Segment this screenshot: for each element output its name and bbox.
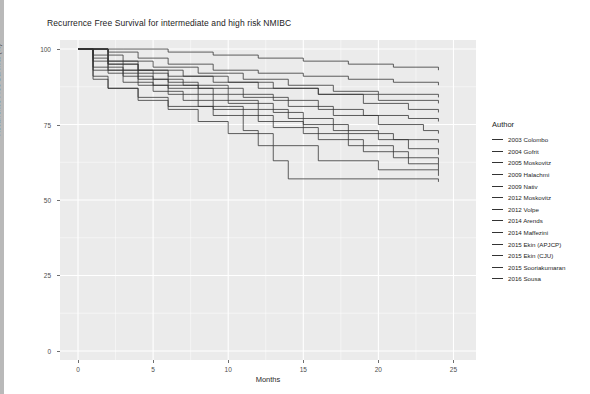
legend-line-icon (492, 151, 503, 152)
x-tick-mark (153, 360, 154, 363)
x-tick-mark (303, 360, 304, 363)
legend-item[interactable]: 2005 Moskovitz (492, 157, 588, 169)
legend-item[interactable]: 2015 Ekin (CJU) (492, 250, 588, 262)
x-tick-label: 0 (76, 366, 80, 373)
legend-line-icon (492, 139, 503, 140)
legend-item-label: 2015 Sooriakumaran (508, 264, 565, 271)
legend-line-icon (492, 162, 503, 163)
legend-item[interactable]: 2004 Gofrit (492, 146, 588, 158)
legend-item[interactable]: 2014 Arends (492, 215, 588, 227)
legend-item-label: 2015 Ekin (CJU) (508, 252, 553, 259)
legend-item[interactable]: 2015 Sooriakumaran (492, 262, 588, 274)
legend-title: Author (492, 120, 588, 129)
legend-item-list: 2003 Colombo2004 Gofrit2005 Moskovitz200… (492, 134, 588, 285)
legend-item[interactable]: 2015 Ekin (APJCP) (492, 238, 588, 250)
legend-item-label: 2012 Moskovitz (508, 194, 551, 201)
x-tick-mark (453, 360, 454, 363)
legend-item-label: 2009 Nativ (508, 183, 538, 190)
x-tick-label: 10 (225, 366, 232, 373)
page-footer-text (0, 388, 590, 394)
x-tick-mark (78, 360, 79, 363)
legend-line-icon (492, 174, 503, 175)
x-tick-label: 25 (450, 366, 457, 373)
legend-item-label: 2012 Volpe (508, 206, 539, 213)
x-tick-label: 15 (300, 366, 307, 373)
legend-line-icon (492, 255, 503, 256)
legend-item[interactable]: 2003 Colombo (492, 134, 588, 146)
legend-line-icon (492, 278, 503, 279)
legend-item[interactable]: 2012 Moskovitz (492, 192, 588, 204)
legend-item[interactable]: 2009 Nativ (492, 180, 588, 192)
legend-item[interactable]: 2012 Volpe (492, 204, 588, 216)
legend-line-icon (492, 209, 503, 210)
legend-line-icon (492, 267, 503, 268)
x-tick-label: 5 (151, 366, 155, 373)
legend-line-icon (492, 244, 503, 245)
x-axis-label: Months (60, 375, 476, 384)
legend-item-label: 2005 Moskovitz (508, 159, 551, 166)
chart-page: Recurrence Free Survival for intermediat… (0, 0, 590, 394)
legend-item[interactable]: 2016 Sousa (492, 273, 588, 285)
x-tick-mark (228, 360, 229, 363)
legend-item[interactable]: 2014 Maffezini (492, 227, 588, 239)
legend-item-label: 2015 Ekin (APJCP) (508, 241, 561, 248)
legend-item-label: 2016 Sousa (508, 275, 541, 282)
legend-line-icon (492, 220, 503, 221)
legend-item-label: 2009 Halachmi (508, 171, 549, 178)
legend-item-label: 2003 Colombo (508, 136, 548, 143)
legend-line-icon (492, 197, 503, 198)
legend-line-icon (492, 186, 503, 187)
legend-item[interactable]: 2009 Halachmi (492, 169, 588, 181)
legend: Author 2003 Colombo2004 Gofrit2005 Mosko… (492, 120, 588, 285)
legend-item-label: 2014 Arends (508, 217, 543, 224)
x-tick-mark (378, 360, 379, 363)
legend-item-label: 2014 Maffezini (508, 229, 548, 236)
legend-line-icon (492, 232, 503, 233)
x-tick-label: 20 (375, 366, 382, 373)
legend-item-label: 2004 Gofrit (508, 148, 539, 155)
